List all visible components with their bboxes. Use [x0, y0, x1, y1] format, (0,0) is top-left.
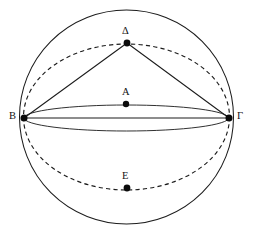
tilted-great-circle-dashed [24, 44, 230, 190]
vertex-label-gamma: Γ [237, 111, 243, 122]
vertex-label-delta: Δ [122, 26, 129, 37]
vertex-dot-delta [124, 40, 131, 47]
vertex-dot-beta [21, 115, 28, 122]
vertex-dot-epsilon [124, 185, 131, 192]
geometry-diagram-canvas: Δ A B Γ E [0, 0, 253, 237]
vertex-label-beta: B [9, 111, 16, 122]
vertex-label-alpha: A [122, 87, 130, 98]
vertex-dot-gamma [226, 115, 233, 122]
vertex-dot-alpha [123, 101, 129, 107]
vertex-label-epsilon: E [122, 171, 128, 182]
